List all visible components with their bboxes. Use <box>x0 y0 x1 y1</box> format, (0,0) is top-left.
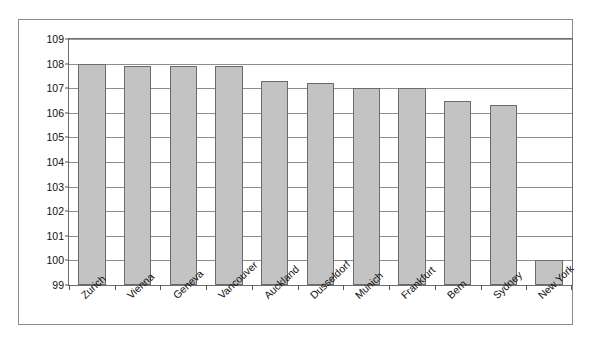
x-tick-mark <box>160 285 161 290</box>
chart-frame: 99100101102103104105106107108109 ZurichV… <box>18 19 573 325</box>
y-tick-mark <box>65 186 69 187</box>
x-tick-mark <box>526 285 527 290</box>
x-tick-mark <box>481 285 482 290</box>
bar <box>78 64 105 285</box>
y-tick-label: 108 <box>46 58 64 69</box>
x-tick-mark <box>389 285 390 290</box>
gridline <box>69 39 572 40</box>
y-tick-label: 100 <box>46 255 64 266</box>
y-tick-label: 109 <box>46 34 64 45</box>
x-tick-mark <box>115 285 116 290</box>
y-tick-label: 104 <box>46 157 64 168</box>
x-tick-mark <box>343 285 344 290</box>
x-tick-mark <box>252 285 253 290</box>
y-tick-label: 102 <box>46 206 64 217</box>
plot-area: 99100101102103104105106107108109 ZurichV… <box>68 38 573 286</box>
y-tick-label: 99 <box>52 280 64 291</box>
bar <box>444 101 471 286</box>
y-tick-label: 103 <box>46 181 64 192</box>
y-tick-label: 105 <box>46 132 64 143</box>
y-tick-mark <box>65 63 69 64</box>
y-tick-label: 107 <box>46 83 64 94</box>
gridline <box>69 64 572 65</box>
bar <box>170 66 197 285</box>
y-tick-mark <box>65 235 69 236</box>
y-tick-mark <box>65 162 69 163</box>
x-tick-mark <box>206 285 207 290</box>
y-tick-label: 106 <box>46 108 64 119</box>
y-tick-mark <box>65 211 69 212</box>
y-tick-mark <box>65 112 69 113</box>
bar <box>490 105 517 285</box>
bar <box>398 88 425 285</box>
y-tick-mark <box>65 137 69 138</box>
bar <box>261 81 288 285</box>
bar <box>215 66 242 285</box>
x-tick-mark <box>69 285 70 290</box>
bar <box>124 66 151 285</box>
bar <box>307 83 334 285</box>
y-tick-mark <box>65 39 69 40</box>
y-tick-mark <box>65 260 69 261</box>
bar <box>353 88 380 285</box>
x-tick-mark <box>298 285 299 290</box>
x-tick-mark <box>435 285 436 290</box>
x-tick-mark <box>571 285 572 290</box>
y-tick-mark <box>65 88 69 89</box>
y-tick-label: 101 <box>46 231 64 242</box>
